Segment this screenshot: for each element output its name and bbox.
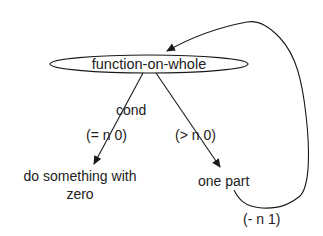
- recursive-case-condition: (> n 0): [175, 127, 216, 143]
- base-case-condition: (= n 0): [86, 127, 127, 143]
- diagram-canvas: function-on-whole cond (= n 0) (> n 0) d…: [0, 0, 323, 236]
- condition-label: cond: [116, 102, 146, 118]
- recursive-case-target: one part: [198, 173, 249, 189]
- recursion-edge-label: (- n 1): [243, 211, 280, 227]
- recursive-case-arrow: [156, 73, 220, 167]
- base-case-target-line1: do something with: [10, 168, 150, 184]
- base-case-target-line2: zero: [10, 186, 150, 202]
- base-case-arrow: [94, 73, 143, 164]
- root-node-label: function-on-whole: [50, 56, 248, 72]
